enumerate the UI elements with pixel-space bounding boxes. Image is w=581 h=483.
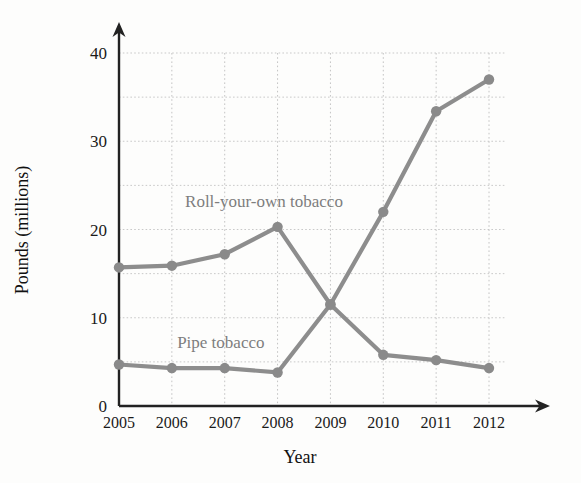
x-axis-title: Year <box>283 447 316 467</box>
series-2 <box>114 299 494 377</box>
y-tick-label-40: 40 <box>90 44 107 63</box>
data-point <box>431 355 441 365</box>
data-series <box>114 74 494 377</box>
x-tick-label-2007: 2007 <box>209 414 241 431</box>
data-point <box>378 350 388 360</box>
y-tick-label-20: 20 <box>90 221 107 240</box>
x-tick-label-2008: 2008 <box>262 414 294 431</box>
data-point <box>431 106 441 116</box>
series-label-2: Pipe tobacco <box>177 333 264 352</box>
data-point <box>325 299 335 309</box>
x-tick-label-2009: 2009 <box>314 414 346 431</box>
data-point <box>167 363 177 373</box>
data-point <box>484 363 494 373</box>
data-point <box>272 367 282 377</box>
line-chart-canvas: 010203040 200520062007200820092010201120… <box>0 0 581 483</box>
x-axis-tick-labels: 20052006200720082009201020112012 <box>103 414 505 431</box>
vertical-gridlines <box>119 53 489 406</box>
data-point <box>220 363 230 373</box>
data-point <box>114 359 124 369</box>
x-tick-label-2012: 2012 <box>473 414 505 431</box>
x-tick-label-2011: 2011 <box>420 414 451 431</box>
y-axis-title: Pounds (millions) <box>12 166 33 295</box>
x-tick-label-2005: 2005 <box>103 414 135 431</box>
series-inline-labels: Roll-your-own tobaccoPipe tobacco <box>177 192 343 352</box>
data-point <box>220 249 230 259</box>
x-tick-label-2010: 2010 <box>367 414 399 431</box>
y-tick-label-10: 10 <box>90 309 107 328</box>
data-point <box>167 260 177 270</box>
y-tick-label-30: 30 <box>90 132 107 151</box>
x-tick-label-2006: 2006 <box>156 414 188 431</box>
data-point <box>378 207 388 217</box>
data-point <box>272 222 282 232</box>
data-point <box>484 74 494 84</box>
y-axis-tick-labels: 010203040 <box>90 44 107 416</box>
series-label-1: Roll-your-own tobacco <box>185 192 343 211</box>
chart-figure: 010203040 200520062007200820092010201120… <box>0 0 581 483</box>
data-point <box>114 262 124 272</box>
